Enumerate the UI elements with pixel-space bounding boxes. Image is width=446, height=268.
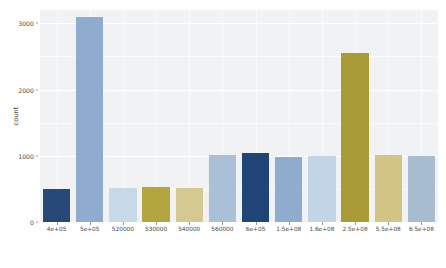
x-axis-tick-label: 2.5e+08 — [343, 226, 368, 232]
y-axis-tick-label: 0 — [30, 219, 34, 226]
plot-panel — [40, 10, 438, 222]
bar — [176, 188, 203, 222]
x-axis-tick-label: 560000 — [211, 226, 233, 232]
x-axis-tick-label: 520000 — [112, 226, 134, 232]
y-axis-tick-mark — [36, 89, 39, 90]
y-axis-tick-mark — [36, 155, 39, 156]
x-axis-tick-label: 6.5e+08 — [409, 226, 434, 232]
bar — [308, 156, 335, 222]
x-axis-tick-label: 1.5e+08 — [276, 226, 301, 232]
x-axis-tick-label: 530000 — [145, 226, 167, 232]
x-axis-tick-label: 6e+05 — [246, 226, 266, 232]
x-axis-tick-mark — [256, 222, 257, 225]
x-axis-tick-mark — [156, 222, 157, 225]
x-axis-tick-mark — [355, 222, 356, 225]
x-axis-tick-label: 1.6e+08 — [309, 226, 334, 232]
bar-chart: count 0100020003000 4e+055e+055200005300… — [0, 0, 446, 268]
x-axis-tick-label: 5e+05 — [80, 226, 100, 232]
y-axis-tick-label: 2000 — [18, 86, 34, 93]
y-axis-tick-mark — [36, 23, 39, 24]
x-axis-tick-label: 5.5e+08 — [376, 226, 401, 232]
x-axis-tick-mark — [421, 222, 422, 225]
x-axis-tick-mark — [57, 222, 58, 225]
bar — [209, 155, 236, 222]
bar — [375, 155, 402, 222]
bar — [275, 157, 302, 222]
x-axis-tick-mark — [123, 222, 124, 225]
x-axis-tick-mark — [90, 222, 91, 225]
y-axis-tick-label: 1000 — [18, 152, 34, 159]
x-axis-tick-label: 540000 — [178, 226, 200, 232]
x-axis-tick-mark — [289, 222, 290, 225]
y-axis-tick-mark — [36, 222, 39, 223]
bar — [43, 189, 70, 222]
bar — [242, 153, 269, 222]
bar — [142, 187, 169, 222]
bar — [109, 188, 136, 222]
bar — [76, 17, 103, 222]
x-axis-tick-mark — [388, 222, 389, 225]
x-axis-tick-mark — [222, 222, 223, 225]
bar — [341, 53, 368, 222]
y-axis-tick-label: 3000 — [18, 20, 34, 27]
y-axis-tick-labels: 0100020003000 — [16, 10, 38, 222]
bar — [408, 156, 435, 222]
x-axis-tick-mark — [322, 222, 323, 225]
x-axis-tick-label: 4e+05 — [47, 226, 67, 232]
x-axis-tick-mark — [189, 222, 190, 225]
x-axis-tick-labels: 4e+055e+055200005300005400005600006e+051… — [40, 226, 438, 242]
